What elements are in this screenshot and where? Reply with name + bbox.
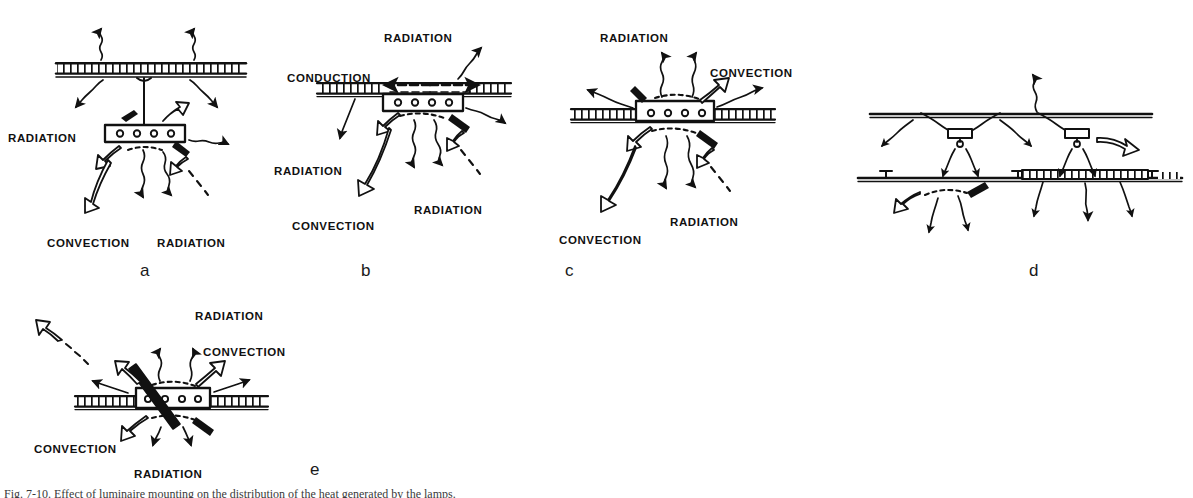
heat-spray [400,113,444,118]
convection-arrow [601,146,636,212]
radiation-arrow [190,80,217,107]
radiation-arrow [665,136,668,188]
heat-spray [925,190,967,195]
convection-arrow [196,361,225,387]
label-convection: CONVECTION [292,221,375,233]
panel-letter-b: b [361,262,370,279]
label-radiation: RADIATION [414,205,482,217]
figure-caption: Fig. 7-10. Effect of luminaire mounting … [4,487,1189,498]
panel-letter-d: d [1029,262,1038,279]
luminaire-b [383,94,463,111]
suspended-ceiling-d [858,170,1182,182]
convection-arrow [697,148,714,168]
radiation-arrow [929,198,938,232]
label-radiation: RADIATION [157,238,225,250]
radiation-arrow [943,149,955,176]
dashed-flow [189,171,208,195]
convection-arrow [163,102,189,121]
panel-e [36,320,268,445]
panel-a [56,29,246,213]
convection-arrow [967,182,989,198]
radiation-arrow [434,120,442,165]
convection-arrow [696,130,718,149]
radiation-arrow [142,150,145,197]
radiation-arrow [588,90,633,108]
convection-arrow [1097,138,1139,156]
radiation-arrow [189,140,228,144]
panel-letter-a: a [140,262,149,279]
radiation-arrow [661,53,664,97]
convection-arrow [627,127,652,151]
radiation-arrow [340,99,355,138]
label-convection: CONVECTION [559,235,642,247]
radiation-arrow [882,120,913,146]
luminaire-c [636,101,714,121]
dashed-flow [66,344,88,364]
convection-arrow [170,157,188,175]
convection-arrow [172,141,190,157]
radiation-arrow [958,196,968,230]
pendant-fixture-d-2 [1065,129,1089,147]
radiation-arrow [153,427,161,445]
label-convection: CONVECTION [34,444,117,456]
radiation-arrow [413,120,416,167]
radiation-arrow [687,136,695,187]
label-radiation: RADIATION [600,33,668,45]
radiation-arrow [1034,182,1043,216]
panel-letter-c: c [565,262,574,279]
label-radiation: RADIATION [274,166,342,178]
label-radiation: RADIATION [134,469,202,481]
heat-spray [152,382,195,386]
radiation-arrow [1085,183,1088,220]
heat-spray [128,147,162,150]
label-radiation: RADIATION [195,311,263,323]
convection-arrow [358,128,391,196]
convection-arrow [447,131,464,151]
dashed-flow [461,150,480,174]
convection-arrow [192,417,214,436]
radiation-arrow [1000,120,1031,146]
label-radiation: RADIATION [670,217,738,229]
radiation-arrow [458,48,481,79]
convection-arrow [700,78,729,103]
radiation-arrow [973,113,1000,130]
radiation-arrow [1038,113,1065,130]
radiation-arrow [76,80,103,107]
radiation-arrow [190,349,194,381]
label-convection: CONVECTION [710,68,793,80]
radiation-arrow [100,29,103,60]
heat-spray [652,128,696,133]
label-radiation: RADIATION [8,133,76,145]
convection-arrow [121,110,138,122]
radiation-arrow [466,108,505,123]
luminaire-a [105,125,185,142]
panel-b [317,48,511,196]
panel-d [858,75,1182,232]
label-conduction: CONDUCTION [287,73,371,85]
radiation-arrow [159,349,162,381]
pendant-fixture-d-1 [948,129,972,147]
convection-arrow [448,114,470,133]
radiation-arrow [1033,75,1037,112]
structural-slab-d [870,114,1152,118]
dashed-flow [711,167,730,191]
panel-letter-e: e [310,461,319,478]
radiation-arrow [692,53,696,97]
label-convection: CONVECTION [47,238,130,250]
radiation-arrow [93,381,128,393]
radiation-arrow [921,113,948,130]
radiation-arrow [966,149,978,176]
label-convection: CONVECTION [203,347,286,359]
radiation-arrow [214,380,249,392]
radiation-arrow [193,29,196,60]
convection-arrow [121,416,148,441]
convection-arrow [36,320,62,341]
radiation-arrow [1120,182,1132,216]
convection-arrow [894,192,920,213]
radiation-arrow [183,427,191,445]
label-radiation: RADIATION [384,33,452,45]
ceiling-a [56,63,246,77]
